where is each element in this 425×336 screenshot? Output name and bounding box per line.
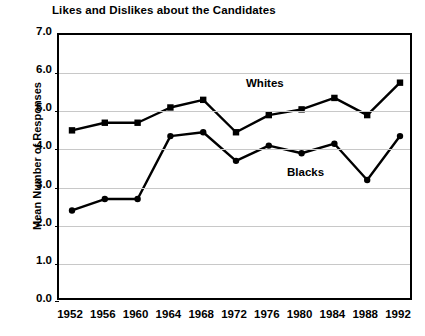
data-point-whites-1952 <box>69 127 75 133</box>
y-axis-tick <box>55 301 59 302</box>
data-point-blacks-1980 <box>298 150 304 156</box>
y-axis-tick-label: 1.0 <box>22 254 52 266</box>
x-axis-tick-label: 1992 <box>378 308 418 320</box>
gridline <box>59 264 410 265</box>
data-point-whites-1964 <box>167 104 173 110</box>
y-axis-tick-label: 2.0 <box>22 216 52 228</box>
page-title: Likes and Dislikes about the Candidates <box>52 4 276 16</box>
y-axis-tick-labels: 7.06.05.04.03.02.01.00.0 <box>18 0 52 336</box>
x-axis-tick-labels: 1952195619601964196819721976198019841988… <box>57 308 412 328</box>
plot-area <box>57 33 412 300</box>
data-point-blacks-1988 <box>364 177 370 183</box>
data-point-blacks-1992 <box>397 133 403 139</box>
y-axis-tick <box>55 149 59 150</box>
data-point-blacks-1968 <box>200 129 206 135</box>
data-point-whites-1968 <box>200 97 206 103</box>
series-label-blacks: Blacks <box>287 166 324 178</box>
data-point-blacks-1972 <box>233 158 239 164</box>
data-point-whites-1960 <box>134 120 140 126</box>
y-axis-tick <box>55 188 59 189</box>
data-point-whites-1972 <box>233 129 239 135</box>
gridline <box>59 111 410 112</box>
y-axis-tick-label: 7.0 <box>22 25 52 37</box>
gridline <box>59 73 410 74</box>
data-point-blacks-1984 <box>331 141 337 147</box>
y-axis-tick-label: 0.0 <box>22 292 52 304</box>
y-axis-tick-label: 6.0 <box>22 63 52 75</box>
data-point-whites-1984 <box>331 95 337 101</box>
gridline <box>59 149 410 150</box>
series-line-whites <box>72 83 400 133</box>
y-axis-tick <box>55 226 59 227</box>
y-axis-tick-label: 5.0 <box>22 101 52 113</box>
y-axis-tick-label: 3.0 <box>22 178 52 190</box>
data-point-whites-1992 <box>397 79 403 85</box>
series-label-whites: Whites <box>246 77 284 89</box>
series-line-blacks <box>72 132 400 210</box>
data-point-blacks-1976 <box>266 142 272 148</box>
y-axis-tick-label: 4.0 <box>22 139 52 151</box>
y-axis-tick <box>55 111 59 112</box>
y-axis-tick <box>55 264 59 265</box>
chart-page: Likes and Dislikes about the Candidates … <box>0 0 425 336</box>
data-point-blacks-1964 <box>167 133 173 139</box>
gridline <box>59 226 410 227</box>
data-point-blacks-1952 <box>69 207 75 213</box>
data-point-whites-1956 <box>102 120 108 126</box>
data-point-blacks-1960 <box>134 196 140 202</box>
series-layer <box>59 35 414 302</box>
gridline <box>59 188 410 189</box>
y-axis-tick <box>55 73 59 74</box>
data-point-whites-1988 <box>364 112 370 118</box>
data-point-whites-1976 <box>266 112 272 118</box>
data-point-blacks-1956 <box>102 196 108 202</box>
